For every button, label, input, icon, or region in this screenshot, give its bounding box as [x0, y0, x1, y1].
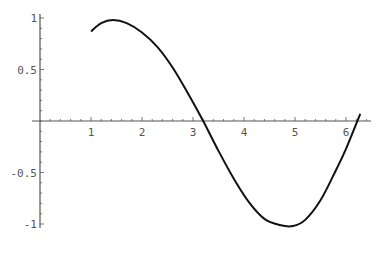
x-tick-label: 2: [139, 126, 146, 139]
y-tick-label: -1: [24, 218, 37, 231]
x-tick-label: 4: [241, 126, 248, 139]
x-tick-label: 3: [190, 126, 197, 139]
y-tick-label: 1: [30, 12, 37, 25]
y-tick-label: 0.5: [17, 64, 37, 77]
y-tick-label: -0.5: [11, 167, 38, 180]
x-tick-label: 6: [343, 126, 350, 139]
data-line: [91, 20, 360, 226]
line-chart: 12345610.5-0.5-1: [0, 0, 377, 254]
axes: [32, 14, 371, 228]
x-tick-label: 1: [88, 126, 95, 139]
x-tick-label: 5: [292, 126, 299, 139]
